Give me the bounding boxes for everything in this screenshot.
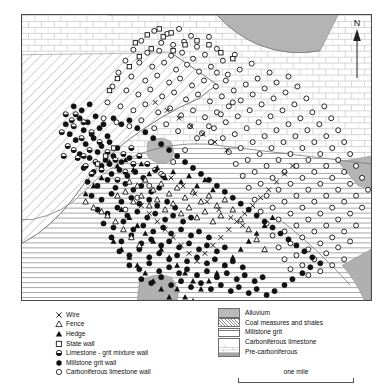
map-marker[interactable]	[308, 265, 313, 270]
map-marker[interactable]	[179, 113, 184, 118]
map-marker[interactable]	[272, 288, 277, 293]
map-marker[interactable]	[107, 140, 112, 145]
map-marker[interactable]	[175, 253, 180, 258]
map-marker[interactable]	[121, 151, 126, 156]
map-marker[interactable]	[101, 221, 106, 226]
map-marker[interactable]	[176, 129, 181, 134]
map-marker[interactable]	[238, 201, 243, 206]
map-marker[interactable]	[360, 205, 365, 210]
map-marker[interactable]	[294, 253, 299, 258]
map-marker[interactable]	[342, 140, 347, 145]
map-marker[interactable]	[206, 124, 211, 129]
map-marker[interactable]	[99, 167, 104, 172]
map-marker[interactable]	[336, 128, 341, 133]
map-marker[interactable]	[69, 118, 74, 123]
map-marker[interactable]	[260, 275, 265, 280]
map-marker[interactable]	[123, 169, 128, 174]
map-marker[interactable]	[196, 92, 201, 97]
map-marker[interactable]	[336, 187, 341, 192]
map-marker[interactable]	[231, 88, 236, 93]
map-marker[interactable]	[188, 233, 193, 238]
map-marker[interactable]	[269, 146, 274, 151]
map-marker[interactable]	[318, 181, 323, 186]
map-marker[interactable]	[143, 130, 148, 135]
map-marker[interactable]	[288, 211, 293, 216]
map-marker[interactable]	[262, 134, 267, 139]
map-marker[interactable]	[101, 116, 106, 121]
map-marker[interactable]	[119, 239, 124, 244]
map-marker[interactable]	[185, 62, 190, 67]
map-marker[interactable]	[87, 155, 92, 160]
map-marker[interactable]	[324, 251, 329, 256]
map-marker[interactable]	[167, 265, 172, 270]
map-marker[interactable]	[156, 110, 161, 115]
map-marker[interactable]	[145, 161, 150, 166]
map-marker[interactable]	[290, 277, 295, 282]
map-marker[interactable]	[139, 277, 144, 282]
map-marker[interactable]	[97, 126, 102, 131]
map-marker[interactable]	[197, 69, 202, 74]
map-marker[interactable]	[137, 153, 142, 158]
map-marker[interactable]	[330, 205, 335, 210]
map-marker[interactable]	[342, 169, 347, 174]
map-marker[interactable]	[306, 187, 311, 192]
map-marker[interactable]	[242, 273, 247, 278]
map-marker[interactable]	[163, 217, 168, 222]
map-marker[interactable]	[360, 175, 365, 180]
map-marker[interactable]	[222, 245, 227, 250]
map-marker[interactable]	[220, 136, 225, 141]
map-marker[interactable]	[162, 60, 167, 65]
map-marker[interactable]	[137, 55, 141, 59]
map-marker[interactable]	[282, 257, 287, 262]
map-marker[interactable]	[183, 43, 187, 47]
map-marker[interactable]	[286, 237, 291, 242]
map-marker[interactable]	[354, 223, 359, 228]
map-marker[interactable]	[119, 122, 124, 127]
map-marker[interactable]	[270, 225, 275, 230]
map-marker[interactable]	[302, 249, 307, 254]
map-marker[interactable]	[97, 140, 102, 145]
map-marker[interactable]	[225, 72, 230, 77]
map-marker[interactable]	[318, 269, 323, 274]
map-marker[interactable]	[318, 211, 323, 216]
map-marker[interactable]	[167, 80, 172, 85]
map-marker[interactable]	[71, 147, 76, 152]
map-marker[interactable]	[281, 140, 286, 145]
map-marker[interactable]	[255, 76, 260, 81]
map-marker[interactable]	[180, 50, 185, 55]
map-marker[interactable]	[237, 67, 242, 72]
map-marker[interactable]	[324, 223, 329, 228]
map-marker[interactable]	[111, 116, 116, 121]
map-marker[interactable]	[186, 241, 191, 246]
map-marker[interactable]	[77, 116, 82, 121]
map-marker[interactable]	[147, 197, 152, 202]
map-marker[interactable]	[211, 126, 216, 131]
map-marker[interactable]	[191, 56, 196, 61]
map-marker[interactable]	[171, 159, 176, 164]
map-marker[interactable]	[196, 229, 201, 234]
map-marker[interactable]	[201, 78, 206, 83]
map-marker[interactable]	[159, 275, 164, 280]
map-marker[interactable]	[188, 285, 193, 290]
map-marker[interactable]	[286, 122, 291, 127]
map-marker[interactable]	[149, 47, 153, 51]
map-marker[interactable]	[318, 152, 323, 157]
map-marker[interactable]	[115, 177, 120, 182]
map-marker[interactable]	[267, 70, 272, 75]
map-marker[interactable]	[152, 28, 157, 33]
map-canvas[interactable]	[22, 15, 371, 300]
map-marker[interactable]	[81, 153, 86, 158]
map-marker[interactable]	[179, 227, 184, 232]
map-marker[interactable]	[93, 114, 98, 119]
map-marker[interactable]	[283, 90, 288, 95]
map-marker[interactable]	[139, 118, 144, 123]
map-marker[interactable]	[348, 211, 353, 216]
map-marker[interactable]	[306, 217, 311, 222]
map-marker[interactable]	[295, 84, 300, 89]
map-marker[interactable]	[230, 100, 235, 105]
map-marker[interactable]	[63, 112, 68, 117]
map-marker[interactable]	[223, 120, 228, 125]
map-marker[interactable]	[254, 213, 259, 218]
map-marker[interactable]	[171, 213, 176, 218]
map-marker[interactable]	[87, 147, 92, 152]
